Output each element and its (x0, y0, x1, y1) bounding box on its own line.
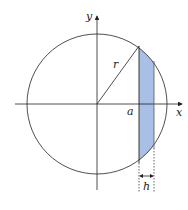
circle-diagram: y x r a h (0, 0, 188, 210)
y-axis-label: y (85, 10, 93, 23)
x-axis-label: x (176, 106, 183, 119)
radius-label: r (113, 58, 119, 71)
radius-line (97, 46, 139, 104)
shaded-strip (139, 30, 154, 180)
h-label: h (143, 180, 150, 193)
a-label: a (127, 105, 134, 118)
